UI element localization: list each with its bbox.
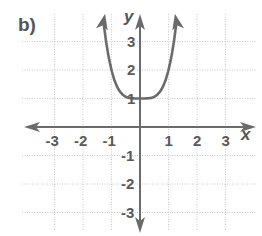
y-tick-label: -1 (121, 148, 134, 163)
y-tick-label: 2 (127, 62, 135, 77)
x-tick-label: -2 (74, 133, 87, 148)
axes (24, 14, 256, 233)
x-tick-label: 1 (165, 133, 173, 148)
graph-figure: b) x y -3-2-1123-3-2-1123 (0, 0, 262, 236)
x-tick-label: -3 (46, 133, 59, 148)
y-tick-label: -2 (121, 176, 134, 191)
x-tick-label: -1 (103, 133, 116, 148)
y-axis-label: y (124, 7, 133, 27)
y-tick-label: -3 (121, 205, 134, 220)
panel-label: b) (18, 14, 36, 36)
x-tick-label: 2 (193, 133, 201, 148)
x-tick-label: 3 (222, 133, 230, 148)
y-tick-label: 3 (127, 34, 135, 49)
y-tick-label: 1 (127, 91, 135, 106)
x-axis-label: x (241, 125, 250, 145)
